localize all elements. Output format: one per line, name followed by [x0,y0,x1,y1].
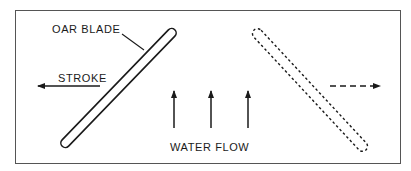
dashed-oar-blade [250,27,369,154]
water-flow-label: WATER FLOW [170,141,249,153]
oar-blade-label: OAR BLADE [52,23,120,35]
oar-diagram: OAR BLADE STROKE WATER FLOW [0,0,411,171]
oar-blade-leader-line [122,34,144,50]
stroke-label: STROKE [58,72,107,84]
solid-oar-blade [59,27,178,150]
